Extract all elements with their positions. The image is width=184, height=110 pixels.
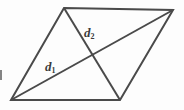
diagonal-d1-label: d1 <box>45 60 56 73</box>
diagonal-d1-label-subscript: 1 <box>52 66 56 75</box>
parallelogram-diagram: d1 d2 <box>0 0 184 110</box>
diagonal-d2-label: d2 <box>84 26 95 39</box>
diagonal-d2-label-subscript: 2 <box>91 32 95 41</box>
diagonal-d2-line <box>64 8 120 100</box>
diagonal-d2-label-base: d <box>84 25 91 40</box>
parallelogram-svg <box>0 0 184 110</box>
left-edge-artifact <box>0 70 2 80</box>
diagonal-d1-label-base: d <box>45 59 52 74</box>
